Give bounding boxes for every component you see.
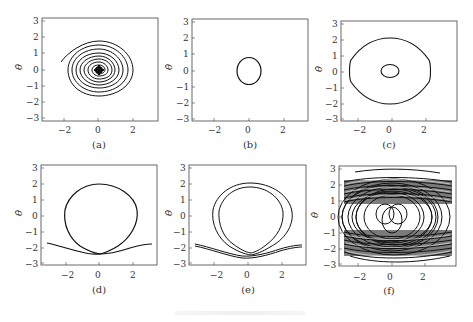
figure-caption bbox=[175, 311, 305, 315]
svg-text:−2: −2 bbox=[353, 125, 366, 135]
svg-text:θ̇: θ̇ bbox=[163, 210, 174, 216]
svg-text:1: 1 bbox=[330, 196, 336, 206]
svg-text:0: 0 bbox=[245, 125, 251, 135]
svg-text:−2: −2 bbox=[25, 243, 38, 253]
panel-d-plot: θ̇ 3210 −1−2−3 −202 bbox=[0, 150, 160, 300]
svg-text:−1: −1 bbox=[26, 81, 39, 91]
panel-a-plot: θ̇ 3210 −1−2−3 −202 bbox=[0, 0, 160, 150]
svg-text:0: 0 bbox=[33, 65, 39, 75]
svg-text:0: 0 bbox=[386, 125, 392, 135]
svg-text:−2: −2 bbox=[210, 270, 223, 280]
panel-label-d: (d) bbox=[79, 284, 119, 295]
svg-text:θ̇: θ̇ bbox=[313, 66, 324, 72]
svg-text:2: 2 bbox=[279, 270, 285, 280]
panel-label-b: (b) bbox=[230, 139, 270, 150]
svg-text:−2: −2 bbox=[325, 99, 338, 109]
svg-text:−1: −1 bbox=[173, 227, 186, 237]
loop-orbit-2 bbox=[219, 187, 283, 253]
svg-text:2: 2 bbox=[183, 33, 189, 43]
svg-text:2: 2 bbox=[130, 125, 136, 135]
svg-text:−3: −3 bbox=[173, 259, 187, 269]
panel-c: θ̇ 3210 −1−2−3 −202 (c) bbox=[300, 0, 473, 150]
outer-orbit bbox=[350, 38, 431, 104]
svg-text:−3: −3 bbox=[325, 114, 339, 124]
loop-orbit bbox=[65, 184, 138, 254]
svg-text:2: 2 bbox=[180, 179, 186, 189]
svg-text:2: 2 bbox=[33, 32, 39, 42]
svg-text:1: 1 bbox=[32, 195, 38, 205]
svg-text:3: 3 bbox=[180, 163, 186, 173]
svg-text:1: 1 bbox=[180, 195, 186, 205]
svg-text:−1: −1 bbox=[25, 227, 38, 237]
svg-text:θ̇: θ̇ bbox=[163, 64, 174, 70]
panel-f: θ̇ 3210 −1−2−3 −202 bbox=[300, 150, 473, 300]
svg-text:0: 0 bbox=[32, 211, 38, 221]
svg-text:2: 2 bbox=[332, 35, 338, 45]
svg-text:−3: −3 bbox=[26, 113, 40, 123]
svg-text:2: 2 bbox=[130, 270, 136, 280]
panel-e: θ̇ 3210 −1−2−3 −202 (e) bbox=[150, 150, 320, 300]
svg-text:−1: −1 bbox=[325, 83, 338, 93]
svg-text:−2: −2 bbox=[323, 244, 336, 254]
svg-text:−2: −2 bbox=[173, 243, 186, 253]
inner-orbit bbox=[381, 65, 399, 78]
svg-text:−3: −3 bbox=[323, 260, 337, 270]
loop-orbit-1 bbox=[213, 183, 293, 255]
panel-label-a: (a) bbox=[79, 139, 119, 150]
panel-c-plot: θ̇ 3210 −1−2−3 −202 bbox=[300, 0, 473, 150]
svg-text:−1: −1 bbox=[323, 228, 336, 238]
panel-a: θ̇ 3210 −1−2−3 −202 (a) bbox=[0, 0, 160, 150]
svg-text:2: 2 bbox=[32, 179, 38, 189]
panel-label-e: (e) bbox=[228, 284, 268, 295]
svg-text:1: 1 bbox=[183, 49, 189, 59]
y-axis-label: θ̇ bbox=[13, 64, 24, 70]
svg-text:−3: −3 bbox=[25, 259, 39, 269]
svg-text:−2: −2 bbox=[353, 272, 366, 282]
panel-label-c: (c) bbox=[369, 139, 409, 150]
svg-text:0: 0 bbox=[332, 67, 338, 77]
limit-cycle-orbit bbox=[237, 58, 261, 85]
svg-text:2: 2 bbox=[280, 125, 286, 135]
y-ticks: 3210 −1−2−3 bbox=[26, 16, 40, 123]
svg-text:0: 0 bbox=[387, 272, 393, 282]
svg-text:−2: −2 bbox=[208, 125, 221, 135]
svg-text:1: 1 bbox=[33, 48, 39, 58]
svg-text:θ̇: θ̇ bbox=[309, 212, 320, 218]
svg-text:2: 2 bbox=[330, 180, 336, 190]
svg-text:3: 3 bbox=[330, 164, 336, 174]
svg-text:0: 0 bbox=[183, 66, 189, 76]
svg-text:2: 2 bbox=[420, 272, 426, 282]
panel-b: θ̇ 3210 −1−2−3 −202 (b) bbox=[150, 0, 320, 150]
svg-text:−2: −2 bbox=[26, 97, 39, 107]
svg-text:0: 0 bbox=[95, 125, 101, 135]
svg-text:−2: −2 bbox=[61, 270, 74, 280]
panel-b-plot: θ̇ 3210 −1−2−3 −202 bbox=[150, 0, 320, 150]
svg-text:θ̇: θ̇ bbox=[13, 64, 24, 70]
svg-text:−1: −1 bbox=[176, 82, 189, 92]
svg-text:−2: −2 bbox=[176, 98, 189, 108]
svg-text:0: 0 bbox=[180, 211, 186, 221]
svg-text:3: 3 bbox=[332, 19, 338, 29]
svg-text:−3: −3 bbox=[176, 114, 190, 124]
svg-text:1: 1 bbox=[332, 51, 338, 61]
svg-text:0: 0 bbox=[95, 270, 101, 280]
svg-text:0: 0 bbox=[330, 212, 336, 222]
svg-text:2: 2 bbox=[421, 125, 427, 135]
panel-f-plot: θ̇ 3210 −1−2−3 −202 bbox=[300, 150, 473, 300]
panel-d: θ̇ 3210 −1−2−3 −202 (d) bbox=[0, 150, 160, 300]
spiral-trajectory bbox=[61, 41, 133, 96]
panel-e-plot: θ̇ 3210 −1−2−3 −202 bbox=[150, 150, 320, 300]
svg-text:θ̇: θ̇ bbox=[13, 210, 24, 216]
svg-text:−2: −2 bbox=[58, 125, 71, 135]
rotating-branch bbox=[47, 243, 152, 254]
panel-label-f: (f) bbox=[369, 285, 409, 296]
x-ticks: −202 bbox=[58, 125, 136, 135]
svg-text:0: 0 bbox=[244, 270, 250, 280]
svg-text:3: 3 bbox=[32, 163, 38, 173]
svg-text:3: 3 bbox=[183, 17, 189, 27]
svg-text:3: 3 bbox=[33, 16, 39, 26]
